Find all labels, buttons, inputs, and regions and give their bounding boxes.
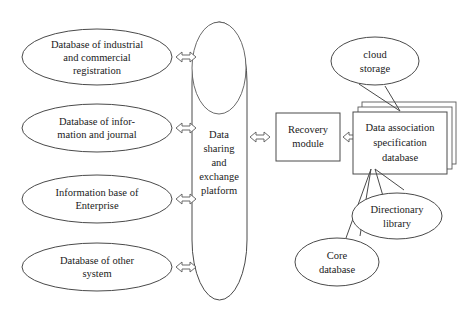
database-stack-node[interactable]: Data association specification database [353,102,456,174]
platform-inner-ellipse [192,22,246,114]
source-label-line-2: Enterprise [75,200,118,211]
platform-label-line-4: exchange [199,171,239,182]
source-node-other-system[interactable]: Database of other system [22,243,172,291]
source-node-enterprise-information-base[interactable]: Information base of Enterprise [22,175,172,223]
callout-directionary-library[interactable]: Directionary library [352,169,442,239]
source-label-line-2: system [82,268,111,279]
platform-label-line-3: and [211,157,227,168]
directionary-library-label-line-1: Directionary [370,204,424,215]
cloud-storage-label-line-2: storage [360,63,391,74]
source-label-line-1: Information base of [56,187,139,198]
ellipse-shape [22,243,172,291]
recovery-module-node[interactable]: Recovery module [276,113,340,161]
connector-platform-recovery [250,132,270,142]
source-label-line-1: Database of other [60,255,135,266]
source-label-line-2: mation and journal [57,129,136,140]
database-stack-label-line-1: Data association [365,122,435,133]
recovery-module-label-line-1: Recovery [288,124,329,135]
connector-source-4-platform [176,262,196,272]
source-node-industrial-commercial-registration[interactable]: Database of industrial and commercial re… [22,29,172,85]
source-node-information-journal[interactable]: Database of infor- mation and journal [22,104,172,152]
directionary-library-ellipse [352,193,442,239]
source-label-line-2: and commercial [63,52,130,63]
database-stack-label-line-2: specification [373,137,427,148]
source-label-line-1: Database of infor- [59,116,136,127]
source-label-line-1: Database of industrial [51,39,143,50]
platform-label-line-5: platform [201,185,237,196]
architecture-diagram: Database of industrial and commercial re… [0,0,470,321]
core-database-label-line-1: Core [327,250,348,261]
ellipse-shape [22,104,172,152]
database-stack-label-line-3: database [382,152,418,163]
core-database-label-line-2: database [319,264,355,275]
platform-node-data-sharing-exchange[interactable]: Data sharing and exchange platform [192,22,247,300]
cloud-storage-label-line-1: cloud [363,49,387,60]
diagram-canvas: Database of industrial and commercial re… [0,0,470,321]
recovery-module-label-line-2: module [292,138,324,149]
source-label-line-3: registration [73,65,122,76]
directionary-library-label-line-2: library [383,218,412,229]
platform-label-line-2: sharing [204,143,236,154]
callout-cloud-storage[interactable]: cloud storage [331,37,419,111]
ellipse-shape [22,175,172,223]
recovery-module-box [276,113,340,161]
platform-label-line-1: Data [209,129,229,140]
cloud-storage-ellipse [331,37,419,85]
core-database-ellipse [295,238,379,286]
